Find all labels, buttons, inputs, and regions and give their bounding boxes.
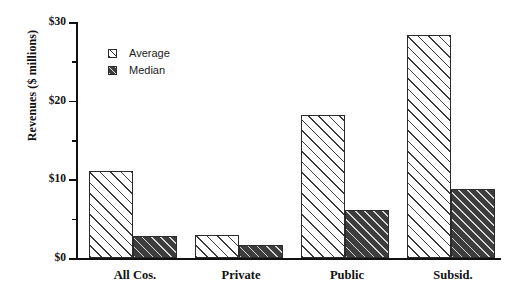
y-tick-10 — [69, 179, 76, 181]
bar-average-public — [301, 115, 345, 258]
bar-average-subsid — [407, 35, 451, 258]
legend-item-average: Average — [108, 46, 170, 60]
x-tick-label-all-cos: All Cos. — [75, 268, 195, 283]
bar-chart: Revenues ($ millions) $30 $20 $10 $0 All — [0, 0, 517, 294]
bar-average-all-cos — [89, 171, 133, 258]
bar-group-subsid — [407, 22, 499, 258]
y-tick-30 — [69, 22, 76, 24]
y-tick-label-20: $20 — [26, 95, 66, 107]
bar-median-public — [345, 210, 389, 258]
x-tick-label-public: Public — [287, 268, 407, 283]
bar-median-all-cos — [133, 236, 177, 258]
y-tick-label-10: $10 — [26, 173, 66, 185]
chart-legend: Average Median — [108, 46, 170, 80]
bar-average-private — [195, 235, 239, 258]
y-tick-label-30: $30 — [26, 16, 66, 28]
x-axis-line — [76, 258, 501, 260]
y-tick-20 — [69, 101, 76, 103]
y-tick-15 — [72, 140, 76, 142]
y-tick-25 — [72, 61, 76, 63]
legend-swatch-average-icon — [108, 49, 117, 58]
y-tick-0 — [69, 258, 76, 260]
y-tick-label-0: $0 — [26, 252, 66, 264]
legend-item-median: Median — [108, 63, 170, 77]
legend-swatch-median-icon — [108, 66, 117, 75]
x-tick-label-subsid: Subsid. — [393, 268, 513, 283]
bar-median-subsid — [451, 189, 495, 258]
y-tick-5 — [72, 219, 76, 221]
bar-group-public — [301, 22, 393, 258]
legend-label-average: Average — [129, 48, 170, 59]
x-tick-label-private: Private — [181, 268, 301, 283]
legend-label-median: Median — [129, 65, 165, 76]
bar-median-private — [239, 245, 283, 258]
bar-group-private — [195, 22, 287, 258]
